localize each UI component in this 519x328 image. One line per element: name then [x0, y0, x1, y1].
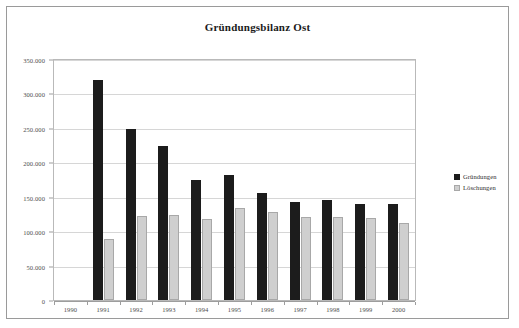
x-axis-tick [251, 302, 252, 305]
x-axis-tick [218, 302, 219, 305]
x-axis-label: 2000 [392, 306, 405, 313]
bar-löschungen-1995 [235, 208, 245, 300]
x-axis-label: 1995 [228, 306, 241, 313]
bar-löschungen-1998 [333, 217, 343, 300]
bar-gründungen-1997 [290, 202, 300, 300]
x-axis-label: 1998 [326, 306, 339, 313]
y-axis-label: 250.000 [23, 125, 45, 132]
x-axis-tick [382, 302, 383, 305]
bar-löschungen-1996 [268, 212, 278, 300]
bar-gründungen-1999 [355, 204, 365, 300]
x-axis-tick [317, 302, 318, 305]
y-axis-label: 0 [42, 298, 45, 305]
x-axis-tick [152, 302, 153, 305]
bar-group [388, 59, 409, 300]
x-axis-tick [349, 302, 350, 305]
bar-löschungen-1993 [169, 215, 179, 300]
x-axis-tick [284, 302, 285, 305]
legend-item-gründungen: Gründungen [454, 173, 509, 180]
x-axis-label: 1999 [359, 306, 372, 313]
bar-gründungen-1996 [257, 193, 267, 300]
legend-item-löschungen: Löschungen [454, 184, 509, 191]
bar-group [158, 59, 179, 300]
x-axis-label: 1990 [64, 306, 77, 313]
x-axis-label: 1992 [129, 306, 142, 313]
x-axis-label: 1994 [195, 306, 208, 313]
bar-group [257, 59, 278, 300]
chart-legend: GründungenLöschungen [451, 170, 511, 195]
legend-label: Löschungen [463, 184, 496, 191]
bar-gründungen-2000 [388, 204, 398, 300]
bar-group [126, 59, 147, 300]
x-axis-tick [120, 302, 121, 305]
chart-frame: Gründungsbilanz Ost 050.000100.000150.00… [6, 6, 509, 319]
bar-gründungen-1993 [158, 146, 168, 300]
bar-group [191, 59, 212, 300]
x-axis-label: 1991 [97, 306, 110, 313]
x-axis-tick [185, 302, 186, 305]
x-axis-tick [87, 302, 88, 305]
x-axis-tick [54, 302, 55, 305]
y-axis-label: 300.000 [23, 91, 45, 98]
x-axis-tick [415, 302, 416, 305]
bar-group [93, 59, 114, 300]
x-axis: 1990199119921993199419951996199719981999… [53, 302, 416, 320]
bar-gründungen-1994 [191, 180, 201, 301]
y-axis: 050.000100.000150.000200.000250.000300.0… [7, 59, 53, 302]
bar-löschungen-1999 [366, 218, 376, 300]
y-axis-label: 50.000 [27, 263, 45, 270]
x-axis-label: 1993 [162, 306, 175, 313]
bar-group [60, 59, 81, 300]
bar-löschungen-1994 [202, 219, 212, 300]
y-axis-label: 150.000 [23, 194, 45, 201]
bar-gründungen-1992 [126, 129, 136, 300]
bar-group [290, 59, 311, 300]
legend-label: Gründungen [463, 173, 497, 180]
bar-gründungen-1991 [93, 80, 103, 300]
bar-löschungen-2000 [399, 223, 409, 300]
x-axis-label: 1997 [293, 306, 306, 313]
bar-löschungen-1997 [301, 217, 311, 300]
bars-layer [53, 59, 416, 301]
y-axis-label: 350.000 [23, 57, 45, 64]
x-axis-label: 1996 [261, 306, 274, 313]
bar-group [355, 59, 376, 300]
bar-gründungen-1995 [224, 175, 234, 300]
bar-group [322, 59, 343, 300]
legend-swatch-icon [454, 174, 460, 180]
chart-title: Gründungsbilanz Ost [7, 21, 508, 33]
bar-löschungen-1991 [104, 239, 114, 300]
y-axis-label: 200.000 [23, 160, 45, 167]
y-axis-label: 100.000 [23, 229, 45, 236]
legend-swatch-icon [454, 185, 460, 191]
bar-gründungen-1998 [322, 200, 332, 300]
bar-group [224, 59, 245, 300]
bar-löschungen-1992 [137, 216, 147, 300]
